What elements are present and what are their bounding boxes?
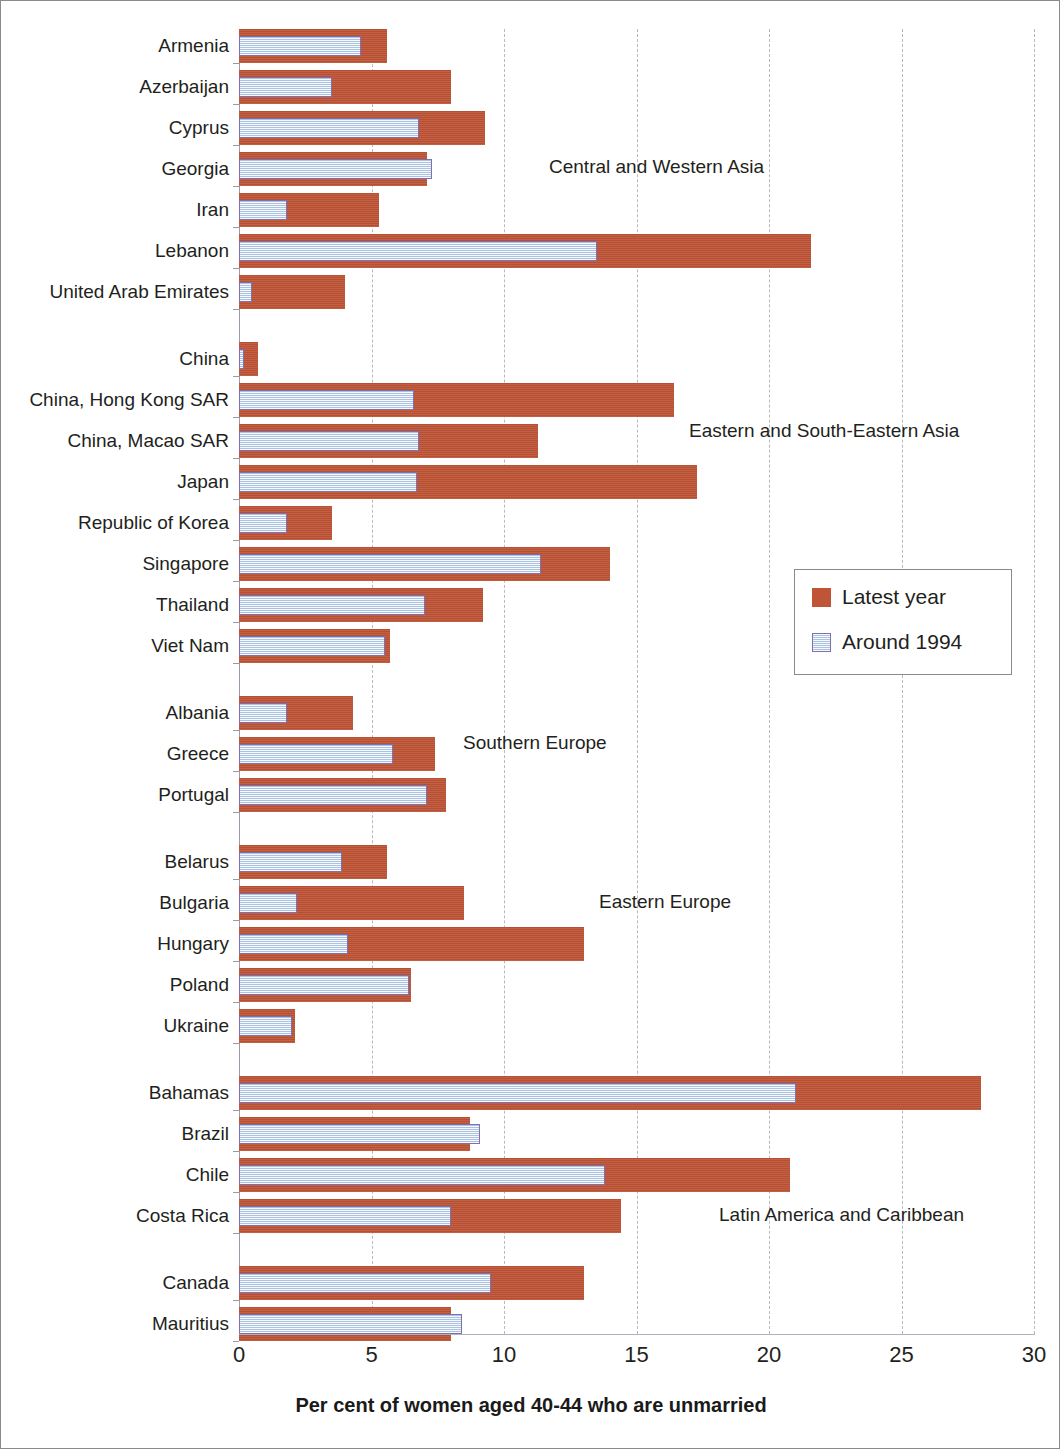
category-label: Brazil — [4, 1124, 229, 1144]
bar-row — [239, 927, 1034, 961]
bar-around-1994 — [239, 975, 409, 995]
category-tick — [233, 1002, 239, 1003]
category-label: Singapore — [4, 554, 229, 574]
category-label: Thailand — [4, 595, 229, 615]
category-label: Bulgaria — [4, 893, 229, 913]
bar-row — [239, 193, 1034, 227]
category-tick — [233, 1233, 239, 1234]
bar-row — [239, 696, 1034, 730]
bar-around-1994 — [239, 390, 414, 410]
category-tick — [233, 1192, 239, 1193]
plot-area — [239, 29, 1034, 1334]
category-label: Costa Rica — [4, 1206, 229, 1226]
bar-row — [239, 506, 1034, 540]
category-label: Armenia — [4, 36, 229, 56]
category-tick — [233, 812, 239, 813]
bar-around-1994 — [239, 1124, 480, 1144]
bar-around-1994 — [239, 744, 393, 764]
bar-around-1994 — [239, 282, 252, 302]
bar-row — [239, 968, 1034, 1002]
x-axis-tick-labels: 051015202530 — [1, 1342, 1060, 1378]
category-label: Albania — [4, 703, 229, 723]
category-label: Japan — [4, 472, 229, 492]
legend-item-around-1994[interactable]: Around 1994 — [812, 630, 962, 654]
chart-figure: ArmeniaAzerbaijanCyprusGeorgiaIranLebano… — [0, 0, 1060, 1449]
bar-around-1994 — [239, 1206, 451, 1226]
category-label: Poland — [4, 975, 229, 995]
category-tick — [233, 879, 239, 880]
bar-around-1994 — [239, 241, 597, 261]
category-label: Cyprus — [4, 118, 229, 138]
category-axis-labels: ArmeniaAzerbaijanCyprusGeorgiaIranLebano… — [1, 29, 229, 1334]
bar-row — [239, 778, 1034, 812]
category-tick — [233, 104, 239, 105]
category-tick — [233, 376, 239, 377]
category-label: Iran — [4, 200, 229, 220]
category-tick — [233, 309, 239, 310]
category-label: United Arab Emirates — [4, 282, 229, 302]
category-label: Republic of Korea — [4, 513, 229, 533]
bar-row — [239, 111, 1034, 145]
bar-around-1994 — [239, 472, 417, 492]
category-tick — [233, 730, 239, 731]
legend-swatch-latest-year-icon — [812, 588, 831, 607]
bar-around-1994 — [239, 77, 332, 97]
bar-row — [239, 29, 1034, 63]
category-tick — [233, 663, 239, 664]
category-tick — [233, 540, 239, 541]
bar-row — [239, 465, 1034, 499]
category-tick — [233, 961, 239, 962]
bar-row — [239, 234, 1034, 268]
category-tick — [233, 227, 239, 228]
x-tick-label-10: 10 — [492, 1342, 516, 1368]
bar-around-1994 — [239, 1314, 462, 1334]
category-label: Canada — [4, 1273, 229, 1293]
category-tick — [233, 1151, 239, 1152]
bar-around-1994 — [239, 1165, 605, 1185]
x-tick-label-25: 25 — [889, 1342, 913, 1368]
category-label: Mauritius — [4, 1314, 229, 1334]
group-annotation: Southern Europe — [463, 732, 607, 754]
bar-around-1994 — [239, 703, 287, 723]
group-annotation: Eastern Europe — [599, 891, 731, 913]
bar-around-1994 — [239, 349, 244, 369]
category-tick — [233, 186, 239, 187]
bar-around-1994 — [239, 159, 432, 179]
x-tick-label-0: 0 — [233, 1342, 245, 1368]
category-tick — [233, 1110, 239, 1111]
bar-row — [239, 1307, 1034, 1341]
group-annotation: Central and Western Asia — [549, 156, 764, 178]
category-tick — [233, 268, 239, 269]
category-label: China — [4, 349, 229, 369]
x-axis-title: Per cent of women aged 40-44 who are unm… — [1, 1394, 1060, 1417]
chart-legend: Latest year Around 1994 — [794, 569, 1012, 675]
legend-swatch-around-1994-icon — [812, 633, 831, 652]
category-label: Bahamas — [4, 1083, 229, 1103]
category-label: China, Hong Kong SAR — [4, 390, 229, 410]
category-tick — [233, 622, 239, 623]
bar-around-1994 — [239, 1273, 491, 1293]
category-label: Belarus — [4, 852, 229, 872]
bar-row — [239, 70, 1034, 104]
bar-row — [239, 737, 1034, 771]
bar-row — [239, 342, 1034, 376]
category-tick — [233, 1043, 239, 1044]
group-annotation: Latin America and Caribbean — [719, 1204, 964, 1226]
category-label: Lebanon — [4, 241, 229, 261]
category-tick — [233, 417, 239, 418]
bar-row — [239, 1117, 1034, 1151]
gridline-30 — [1034, 29, 1035, 1334]
category-label: Ukraine — [4, 1016, 229, 1036]
legend-item-latest-year[interactable]: Latest year — [812, 585, 946, 609]
bar-around-1994 — [239, 785, 427, 805]
category-label: Hungary — [4, 934, 229, 954]
x-tick-label-30: 30 — [1022, 1342, 1046, 1368]
category-tick — [233, 458, 239, 459]
bar-row — [239, 383, 1034, 417]
category-label: Greece — [4, 744, 229, 764]
x-tick-label-15: 15 — [624, 1342, 648, 1368]
legend-label-around-1994: Around 1994 — [842, 630, 962, 654]
bar-row — [239, 1266, 1034, 1300]
x-axis-baseline — [239, 1334, 1035, 1335]
bar-around-1994 — [239, 513, 287, 533]
